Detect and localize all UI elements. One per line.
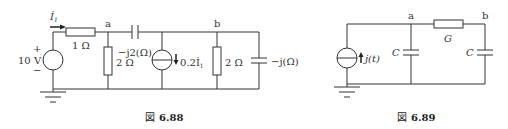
current-label: İ1 — [49, 11, 58, 23]
capacitor-ab — [132, 25, 138, 39]
capacitor-a — [403, 50, 419, 55]
node-a-label: a — [408, 10, 414, 21]
plus-sign: + — [33, 43, 41, 54]
conductance-g — [434, 20, 463, 28]
node-b-label: b — [214, 18, 220, 29]
circuit-diagrams: + 10 V − İ1 1 Ω a 2 Ω −j2(Ω) — [0, 0, 508, 129]
resistor-2ohm-a-label: 2 Ω — [116, 57, 134, 68]
dependent-current-source — [152, 50, 172, 70]
ground-icon — [40, 92, 66, 102]
resistor-2ohm-a — [104, 47, 112, 75]
resistor-1ohm — [66, 28, 95, 36]
capacitor-b-label: −j(Ω) — [271, 56, 299, 67]
figure-caption: 図6.88 — [145, 112, 183, 123]
minus-sign: − — [33, 65, 41, 76]
ground-icon — [334, 87, 360, 97]
capacitor-b-label: C — [466, 47, 474, 58]
dependent-source-label: 0.2İ1 — [180, 57, 204, 69]
capacitor-a-label: C — [392, 47, 400, 58]
conductance-g-label: G — [444, 33, 452, 44]
capacitor-b — [477, 50, 493, 55]
node-b-label: b — [482, 10, 488, 21]
capacitor-b — [251, 58, 267, 63]
figure-6-88: + 10 V − İ1 1 Ω a 2 Ω −j2(Ω) — [18, 11, 299, 123]
node-a-label: a — [105, 18, 111, 29]
capacitor-ab-label: −j2(Ω) — [118, 47, 152, 58]
figure-caption: 図6.89 — [397, 112, 435, 123]
figure-6-89: j(t) a C G b C 図6.89 — [334, 10, 493, 123]
voltage-source: + 10 V − — [18, 43, 63, 76]
resistor-1ohm-label: 1 Ω — [72, 40, 90, 51]
arrow-up-icon — [359, 52, 364, 63]
current-source-label: j(t) — [363, 53, 380, 64]
resistor-2ohm-b — [213, 47, 221, 75]
current-source — [337, 48, 357, 68]
current-arrow-icon — [50, 25, 66, 30]
arrow-down-icon — [174, 54, 179, 65]
resistor-2ohm-b-label: 2 Ω — [225, 57, 243, 68]
